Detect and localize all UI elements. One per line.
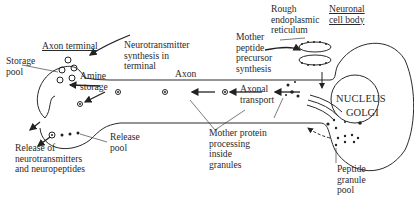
nt-synthesis-label: Neurotransmitter synthesis in terminal [124, 40, 190, 72]
mother-protein-label: Mother protein processing inside granule… [209, 128, 267, 170]
cell-body-label: Neuronal cell body [329, 4, 365, 25]
mother-peptide-label: Mother peptide precursor synthesis [236, 32, 272, 74]
axonal-transport-label: Axonal transport [240, 84, 274, 105]
ribosome-dots [301, 41, 327, 66]
peptide-granule-label: Peptide granule pool [337, 164, 366, 196]
axon-label: Axon [175, 69, 196, 80]
release-of-label: Release of neurotransmitters and neurope… [15, 143, 85, 175]
amine-storage-label: Amine storage [80, 71, 108, 92]
golgi-label: GOLGI [346, 108, 379, 119]
rer-label: Rough endoplasmic reticulum [271, 4, 320, 36]
rough-er-icon [299, 42, 331, 65]
axon-terminal-label: Axon terminal [42, 41, 98, 52]
nucleus-label: NUCLEUS [336, 94, 386, 105]
neuron-diagram: Axon terminal Storage pool Amine storage… [0, 0, 414, 201]
storage-pool-label: Storage pool [6, 56, 35, 77]
release-pool-label: Release pool [110, 132, 140, 153]
